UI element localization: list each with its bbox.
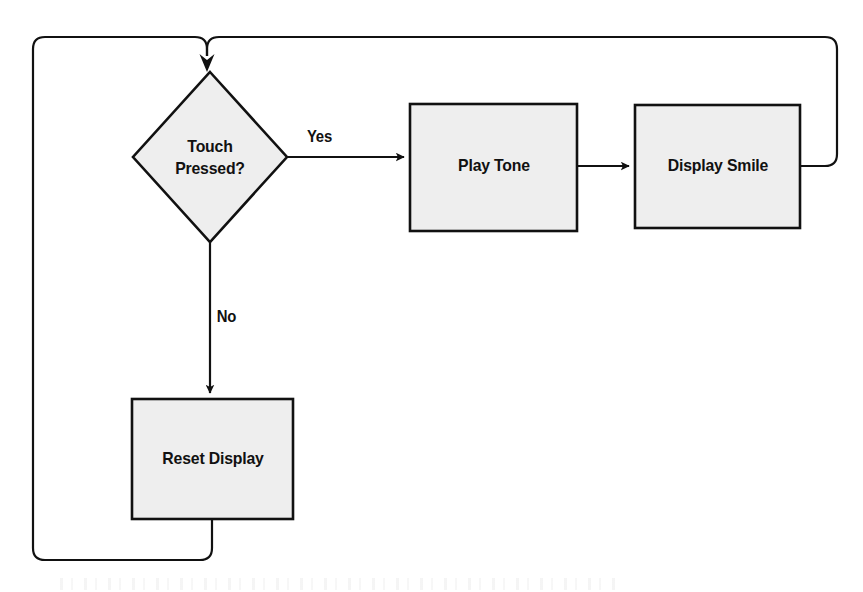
loopback-arrowhead	[200, 54, 215, 72]
node-touch-pressed[interactable]	[133, 72, 287, 242]
node-play-tone[interactable]	[410, 104, 577, 231]
node-reset-display[interactable]	[132, 399, 293, 519]
flowchart-graphics	[0, 0, 863, 592]
node-display-smile[interactable]	[635, 105, 800, 228]
edge-label-yes: Yes	[307, 128, 332, 146]
edge-label-no: No	[217, 308, 236, 326]
flowchart-canvas: Touch Pressed? Play Tone Display Smile R…	[0, 0, 863, 592]
